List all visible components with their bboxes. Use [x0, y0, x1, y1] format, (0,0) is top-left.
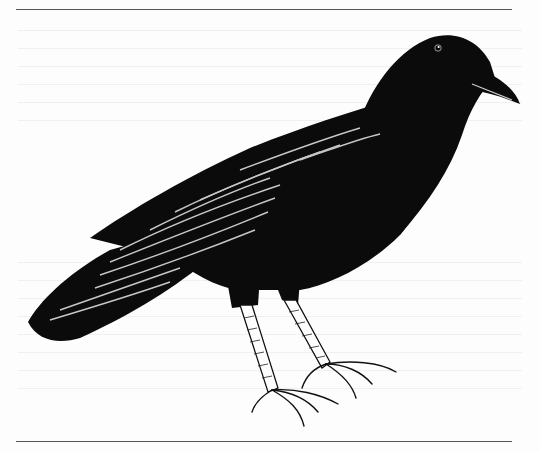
crow-illustration — [0, 0, 540, 452]
crow-feet — [252, 362, 396, 426]
book-page — [0, 0, 540, 452]
crow-thigh-left — [225, 270, 260, 308]
bottom-rule — [16, 441, 512, 442]
crow-legs — [240, 300, 330, 392]
crow-eye — [435, 45, 441, 51]
